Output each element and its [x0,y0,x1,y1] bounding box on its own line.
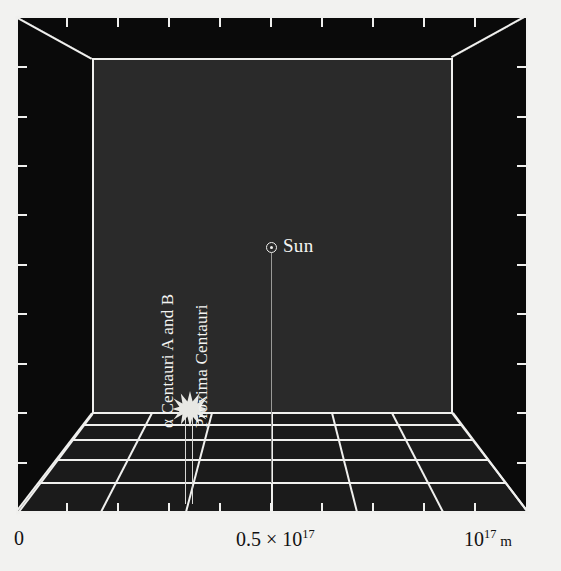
perspective-box: α Centauri A and B Proxima Centauri Sun [16,16,528,514]
astronomy-perspective-figure: α Centauri A and B Proxima Centauri Sun … [0,0,561,571]
backwall-top-edge [92,58,453,60]
sun-symbol-icon [266,242,277,253]
backwall-right-edge [451,58,453,413]
axis-label-max: 1017 m [464,527,512,551]
frame-top-edge [16,16,528,18]
alpha-centauri-label: α Centauri A and B [158,294,178,428]
backwall-left-edge [92,58,94,413]
axis-label-zero: 0 [14,527,24,550]
axis-label-mid-text: 0.5 × 10 [236,528,302,550]
proxima-centauri-label: Proxima Centauri [192,304,212,428]
sun-stem [271,253,272,483]
frame-bottom-edge [16,512,528,514]
axis-label-max-text: 10 [464,528,484,550]
back-wall [92,58,452,413]
sun-label: Sun [283,235,313,257]
backwall-bottom-edge [92,412,453,414]
axis-label-mid-exponent: 17 [302,527,314,541]
axis-label-max-exponent: 17 [484,527,496,541]
axis-label-zero-text: 0 [14,527,24,549]
axis-unit-label: m [496,533,511,549]
axis-label-mid: 0.5 × 1017 [236,527,315,551]
